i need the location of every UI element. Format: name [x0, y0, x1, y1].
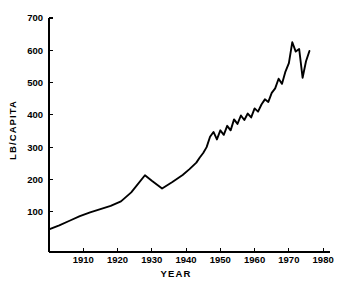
y-tick-label-100: 100 [27, 206, 43, 217]
x-axis-title: YEAR [161, 268, 192, 279]
data-series-line [49, 42, 309, 229]
line-chart: 100200300400500600700 191019201930194019… [0, 0, 346, 290]
x-tick-label-1970: 1970 [278, 254, 299, 265]
x-tick-label-1910: 1910 [73, 254, 94, 265]
y-tick-label-600: 600 [27, 45, 43, 56]
x-tick-label-1960: 1960 [244, 254, 265, 265]
y-tick-label-200: 200 [27, 174, 43, 185]
x-tick-label-1980: 1980 [313, 254, 334, 265]
x-tick-label-1920: 1920 [107, 254, 128, 265]
x-axis-tick-labels: 19101920193019401950196019701980 [73, 254, 334, 265]
plot-area: 100200300400500600700 191019201930194019… [7, 12, 334, 279]
y-tick-label-400: 400 [27, 109, 43, 120]
y-axis-tick-labels: 100200300400500600700 [27, 12, 43, 217]
y-tick-label-300: 300 [27, 142, 43, 153]
x-tick-label-1930: 1930 [141, 254, 162, 265]
x-tick-label-1950: 1950 [210, 254, 231, 265]
y-axis-title: LB/CAPITA [7, 100, 18, 160]
y-tick-label-500: 500 [27, 77, 43, 88]
chart-container: 100200300400500600700 191019201930194019… [0, 0, 346, 290]
y-tick-label-700: 700 [27, 12, 43, 23]
x-tick-label-1940: 1940 [176, 254, 197, 265]
